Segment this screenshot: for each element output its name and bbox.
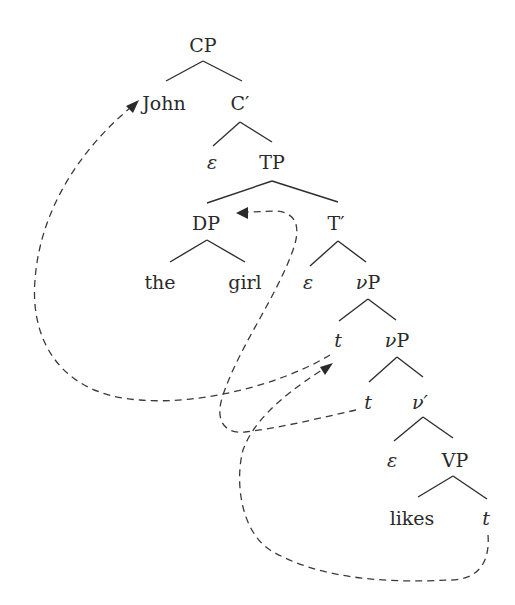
edge-tp-tbar — [272, 181, 338, 202]
node-likes: likes — [390, 509, 435, 528]
movement-arrow-t2-to-dp — [220, 211, 356, 432]
arrowhead-t1-icon — [320, 363, 333, 375]
edge-dp-the — [170, 240, 207, 262]
edge-cbar-tp — [240, 122, 272, 142]
edge-dp-girl — [207, 240, 245, 262]
arrowhead-john-icon — [126, 100, 139, 113]
node-cbar: C′ — [231, 94, 250, 113]
node-trace-subject: t — [334, 331, 342, 350]
node-the: the — [144, 273, 175, 292]
node-tbar: T′ — [328, 214, 345, 233]
edge-vbar-eps — [394, 417, 423, 441]
node-VP: VP — [442, 451, 469, 470]
node-trace-inner: t — [364, 393, 372, 412]
edge-tbar-vp — [338, 241, 366, 262]
node-vp-lower: νP — [385, 331, 409, 350]
edge-vp-vp — [368, 299, 396, 320]
edge-tp-dp — [207, 181, 272, 203]
edge-VP-likes — [418, 476, 453, 497]
edge-cbar-eps — [213, 122, 240, 146]
arrowhead-dp-icon — [236, 207, 248, 219]
node-girl: girl — [228, 273, 261, 292]
tree-edges — [166, 61, 487, 499]
edge-vp-t — [339, 299, 368, 321]
node-john: John — [142, 94, 186, 113]
edge-tbar-eps — [310, 241, 338, 266]
edge-cp-cbar — [203, 61, 242, 81]
node-tp: TP — [259, 153, 284, 172]
edge-VP-t — [453, 476, 487, 499]
node-trace-object: t — [482, 509, 490, 528]
node-vp-upper: νP — [356, 273, 380, 292]
edge-vbar-VP — [423, 417, 453, 438]
node-cp: CP — [189, 36, 216, 55]
node-epsilon-v: ε — [387, 451, 397, 470]
edge-vp2-t — [369, 357, 397, 382]
syntax-tree-diagram: CP John C′ ε TP DP T′ the girl ε νP t νP… — [0, 0, 515, 605]
node-epsilon-c: ε — [207, 153, 217, 172]
tree-branches — [0, 0, 515, 605]
edge-vp2-vbar — [397, 357, 423, 377]
node-vbar: ν′ — [412, 393, 428, 412]
node-epsilon-t: ε — [303, 273, 313, 292]
edge-cp-john — [166, 61, 203, 81]
node-dp: DP — [192, 214, 220, 233]
